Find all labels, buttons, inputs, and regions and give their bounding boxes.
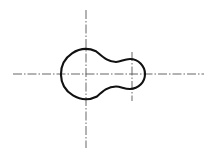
technical-drawing <box>0 0 211 162</box>
